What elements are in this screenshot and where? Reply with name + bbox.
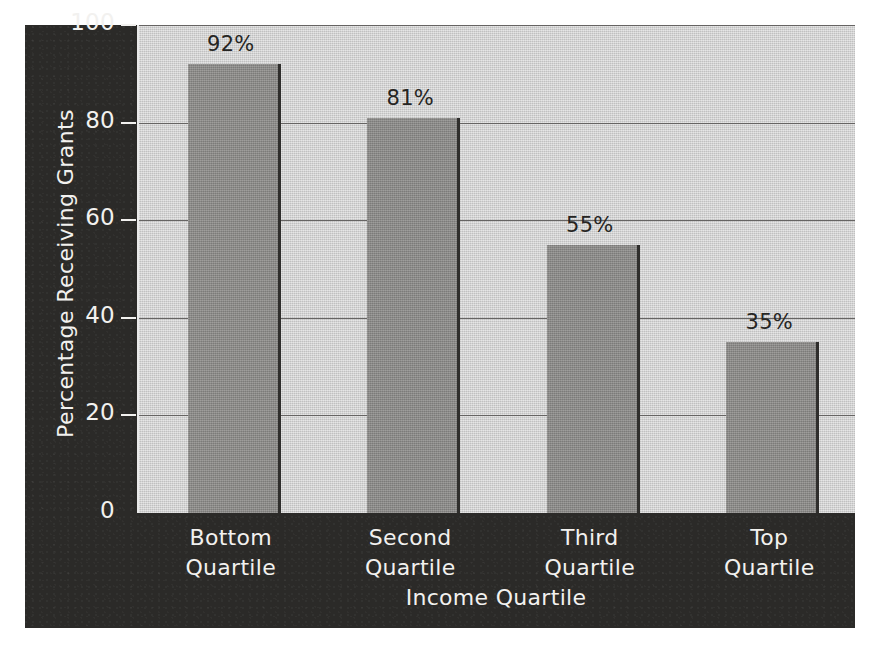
y-tick-mark-40: [121, 317, 136, 319]
y-tick-label-100: 100: [41, 9, 115, 35]
bar-top-quartile: [726, 342, 819, 513]
y-tick-label-20: 20: [41, 399, 115, 425]
chart-panel: Percentage Receiving Grants 100806040200…: [25, 25, 855, 628]
plot-area: [137, 25, 855, 513]
x-tick-line: Quartile: [320, 553, 500, 583]
x-tick-line: Quartile: [679, 553, 859, 583]
y-tick-mark-80: [121, 122, 136, 124]
value-label-third-quartile: 55%: [530, 213, 650, 237]
value-label-top-quartile: 35%: [709, 310, 829, 334]
bar-bottom-quartile: [188, 64, 281, 513]
y-tick-label-0: 0: [41, 497, 115, 523]
y-tick-label-80: 80: [41, 107, 115, 133]
y-tick-mark-20: [121, 414, 136, 416]
bar-third-quartile: [547, 245, 640, 513]
x-tick-label-third-quartile: ThirdQuartile: [500, 523, 680, 583]
value-label-bottom-quartile: 92%: [171, 32, 291, 56]
y-tick-mark-100: [121, 24, 136, 26]
gridline-100: [139, 25, 855, 26]
bar-chart-figure: Percentage Receiving Grants 100806040200…: [0, 0, 879, 652]
x-tick-line: Quartile: [500, 553, 680, 583]
x-tick-line: Third: [500, 523, 680, 553]
x-tick-label-bottom-quartile: BottomQuartile: [141, 523, 321, 583]
y-tick-label-60: 60: [41, 204, 115, 230]
x-tick-label-second-quartile: SecondQuartile: [320, 523, 500, 583]
value-label-second-quartile: 81%: [350, 86, 470, 110]
x-tick-line: Quartile: [141, 553, 321, 583]
bar-second-quartile: [367, 118, 460, 513]
x-tick-label-top-quartile: TopQuartile: [679, 523, 859, 583]
x-tick-line: Second: [320, 523, 500, 553]
y-tick-mark-60: [121, 219, 136, 221]
x-axis-title: Income Quartile: [137, 585, 855, 610]
x-tick-line: Top: [679, 523, 859, 553]
x-tick-line: Bottom: [141, 523, 321, 553]
y-tick-label-40: 40: [41, 302, 115, 328]
